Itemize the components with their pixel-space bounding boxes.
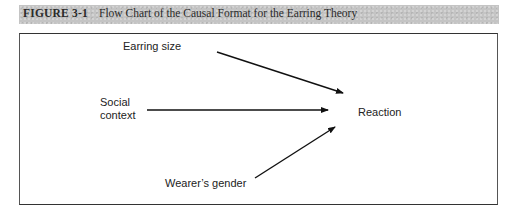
arrow-gender-to-reaction	[255, 127, 335, 178]
arrows	[0, 0, 519, 219]
arrow-earring-to-reaction	[217, 52, 343, 93]
